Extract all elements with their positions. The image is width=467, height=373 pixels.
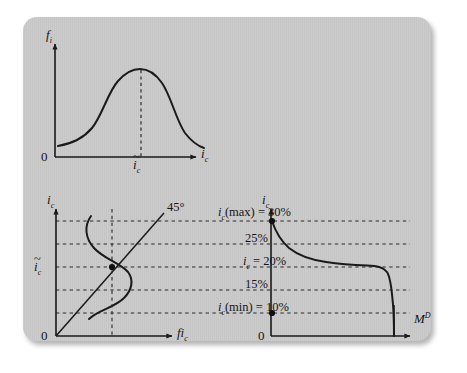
top-chart-mode-label: ~ic: [133, 158, 140, 175]
bottomright-chart-level-label: ic = 20%: [243, 255, 286, 270]
figure-container: fi ic 0 ~ic ic fic 0 45° ~ic ic MD 0 ic(…: [0, 0, 467, 373]
top-chart-y-axis-label: fi: [46, 28, 52, 45]
bottomright-chart-max-label: ic(max) = 30%: [218, 206, 291, 221]
top-chart-x-axis-label: ic: [201, 147, 208, 164]
bottomleft-chart-45-degree-label: 45°: [167, 201, 185, 214]
bottomright-chart-curve: [272, 221, 394, 336]
top-chart-density-curve: [58, 69, 204, 148]
bottomleft-chart-origin-label: 0: [41, 329, 48, 342]
bottomleft-chart-fixed-point-label: ~ic: [34, 260, 41, 277]
bottomleft-chart-fixed-point-marker: [109, 264, 115, 270]
bottomright-chart-min-label: ic(min) = 10%: [218, 301, 289, 316]
bottomright-chart-origin-label: 0: [258, 329, 265, 342]
bottomleft-chart-y-axis-label: ic: [47, 193, 54, 210]
bottomright-chart-axes: [271, 209, 410, 336]
bottomleft-chart-x-axis-label: fic: [177, 326, 188, 343]
bottomright-chart-tick-25-label: 25%: [245, 232, 268, 245]
bottomright-chart-x-axis-label: MD: [414, 312, 431, 325]
bottomleft-chart-45-degree-line: [56, 213, 164, 336]
top-chart-origin-label: 0: [41, 150, 48, 163]
bottomright-chart-tick-15-label: 15%: [245, 278, 268, 291]
figure-drawing: [0, 0, 467, 373]
